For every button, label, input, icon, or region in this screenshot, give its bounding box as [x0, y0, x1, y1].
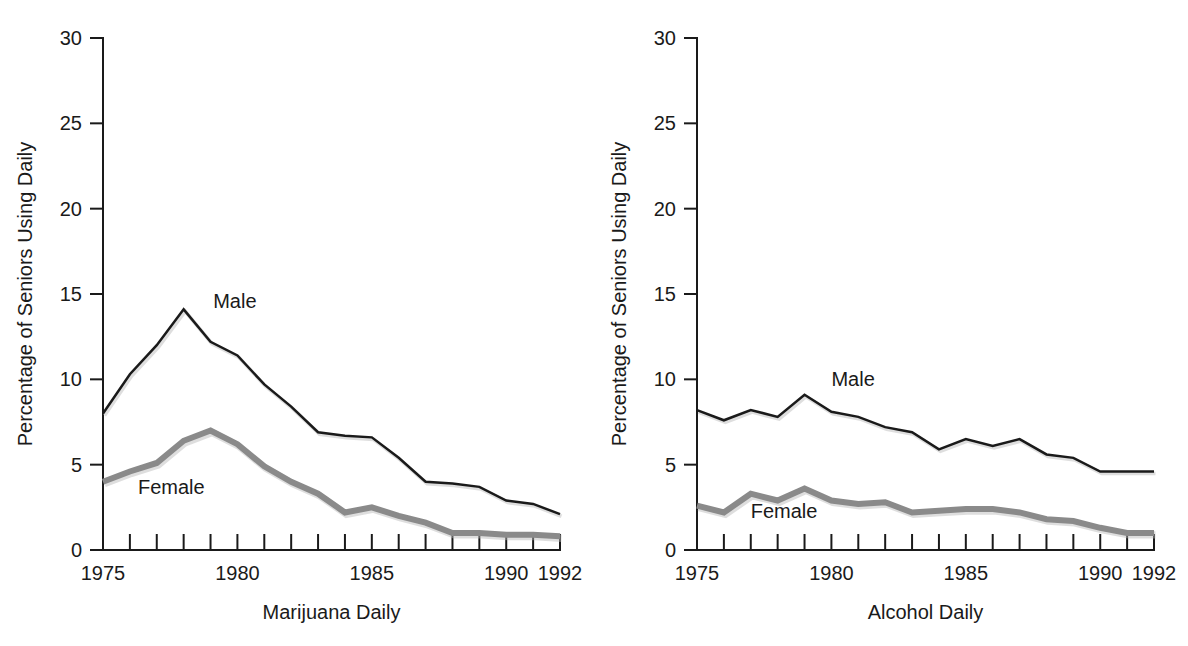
y-tick-label: 5 — [71, 454, 82, 476]
x-tick-label: 1990 — [1078, 562, 1123, 584]
two-panel-line-chart-figure: 05101520253019751980198519901992MaleFema… — [0, 0, 1188, 646]
series-male: Male — [697, 368, 1156, 473]
y-axis-title: Percentage of Seniors Using Daily — [608, 142, 630, 447]
x-axis-title: Marijuana Daily — [263, 601, 401, 623]
y-tick-label: 20 — [60, 198, 82, 220]
y-tick-label: 30 — [60, 27, 82, 49]
y-tick-label: 15 — [654, 283, 676, 305]
y-tick-label: 20 — [654, 198, 676, 220]
x-tick-label: 1975 — [675, 562, 720, 584]
x-tick-label: 1980 — [215, 562, 260, 584]
axes-group — [697, 38, 1154, 550]
series-shadow — [699, 397, 1156, 474]
x-tick-label: 1992 — [538, 562, 583, 584]
y-axis-title: Percentage of Seniors Using Daily — [14, 142, 36, 447]
alcohol-panel: 05101520253019751980198519901992MaleFema… — [594, 0, 1188, 646]
x-tick-label: 1990 — [484, 562, 529, 584]
y-tick-label: 15 — [60, 283, 82, 305]
axes-group — [103, 38, 560, 550]
series-female: Female — [697, 489, 1156, 535]
x-tick-label: 1980 — [809, 562, 854, 584]
chart-svg: 05101520253019751980198519901992MaleFema… — [0, 0, 594, 646]
y-tick-group: 051015202530 — [60, 27, 103, 561]
series-female: Female — [103, 431, 562, 539]
chart-svg: 05101520253019751980198519901992MaleFema… — [594, 0, 1188, 646]
y-tick-label: 0 — [665, 539, 676, 561]
x-tick-group: 19751980198519901992 — [675, 534, 1177, 584]
marijuana-panel: 05101520253019751980198519901992MaleFema… — [0, 0, 594, 646]
series-label-female: Female — [751, 500, 818, 522]
y-tick-label: 25 — [654, 112, 676, 134]
y-tick-group: 051015202530 — [654, 27, 697, 561]
series-label-female: Female — [138, 476, 205, 498]
y-tick-label: 10 — [654, 368, 676, 390]
series-label-male: Male — [213, 290, 256, 312]
y-tick-label: 10 — [60, 368, 82, 390]
x-tick-group: 19751980198519901992 — [81, 534, 583, 584]
y-tick-label: 25 — [60, 112, 82, 134]
series-label-male: Male — [831, 368, 874, 390]
x-tick-label: 1985 — [944, 562, 989, 584]
y-tick-label: 0 — [71, 539, 82, 561]
x-axis-title: Alcohol Daily — [868, 601, 984, 623]
x-tick-label: 1985 — [350, 562, 395, 584]
y-tick-label: 30 — [654, 27, 676, 49]
series-line — [697, 395, 1154, 472]
y-tick-label: 5 — [665, 454, 676, 476]
x-tick-label: 1975 — [81, 562, 126, 584]
x-tick-label: 1992 — [1132, 562, 1177, 584]
